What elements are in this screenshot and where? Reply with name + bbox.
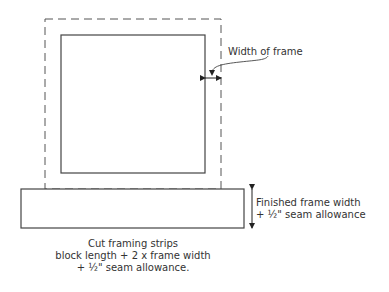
width-of-frame-label: Width of frame <box>228 46 303 57</box>
quilt-block <box>61 35 205 173</box>
finished-width-label-line1: Finished frame width <box>256 197 361 208</box>
finished-width-label-line2: + ½" seam allowance <box>256 209 366 220</box>
caption-line1: Cut framing strips <box>88 238 178 249</box>
caption-line3: + ½" seam allowance. <box>77 262 190 273</box>
framing-diagram: Width of frame Finished frame width + ½"… <box>0 0 389 292</box>
frame-width-dimension <box>205 56 268 78</box>
framing-strip <box>21 189 244 228</box>
caption-line2: block length + 2 x frame width <box>55 250 210 261</box>
leader-arrowhead <box>209 70 215 76</box>
frame-outline-dashed <box>45 19 221 189</box>
leader-curve <box>212 56 268 73</box>
